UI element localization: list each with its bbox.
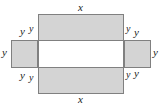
dimension-label-y-tr-b: y — [134, 27, 139, 38]
dimension-label-y-tl-a: y — [20, 26, 25, 37]
dimension-label-y-tr-a: y — [126, 24, 130, 34]
dimension-label-y-left-outer: y — [2, 47, 7, 58]
dimension-label-x-top: x — [78, 2, 83, 13]
dimension-label-y-br-a: y — [126, 70, 130, 80]
dimension-label-y-bl-a: y — [20, 70, 25, 81]
net-diagram: xxyyyyyyyyyy — [0, 0, 162, 104]
top-rectangle — [38, 14, 124, 41]
dimension-label-y-bl-b: y — [29, 73, 33, 83]
dimension-label-y-right-outer: y — [153, 47, 158, 58]
dimension-label-y-tl-b: y — [29, 24, 33, 34]
dimension-label-y-br-b: y — [134, 68, 139, 79]
left-rectangle — [11, 40, 38, 68]
dimension-label-x-bottom: x — [78, 94, 83, 104]
right-rectangle — [124, 40, 151, 68]
center-rectangle — [38, 40, 124, 68]
bottom-rectangle — [38, 67, 124, 94]
